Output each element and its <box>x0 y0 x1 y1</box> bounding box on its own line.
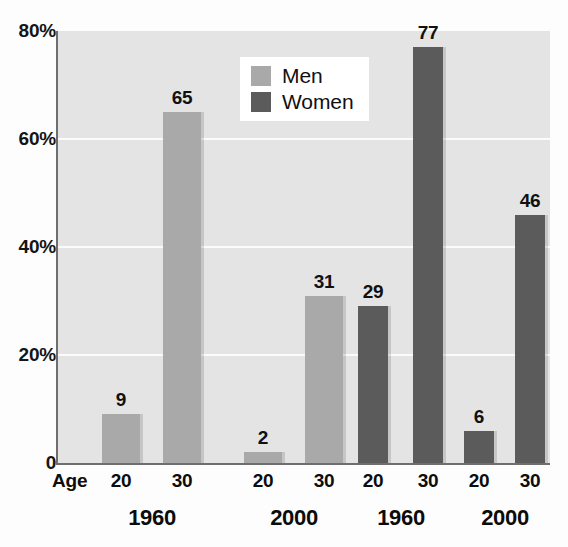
x-axis-age-labels: Age 20 30 20 30 20 30 20 30 <box>0 470 568 500</box>
bar-shadow <box>140 414 143 463</box>
bar-men-1960-age30[interactable]: 65 <box>163 112 201 463</box>
age-tick-women-2000-30: 30 <box>510 470 550 492</box>
year-label-women-2000: 2000 <box>460 505 550 531</box>
chart-figure: 80% 60% 40% 20% 0 9 65 2 31 <box>0 0 568 547</box>
y-tick-60: 60% <box>4 128 56 150</box>
gridline-40 <box>58 246 550 248</box>
plot-area: 9 65 2 31 29 77 6 <box>58 31 550 463</box>
bar-women-1960-age20[interactable]: 29 <box>358 306 388 463</box>
legend-item-women[interactable]: Women <box>251 91 353 112</box>
legend-swatch-men-icon <box>251 66 271 86</box>
bar-value-label: 29 <box>363 281 384 303</box>
bar-value-label: 77 <box>418 22 439 44</box>
x-axis-year-labels: 1960 2000 1960 2000 <box>0 505 568 537</box>
bar-men-2000-age20[interactable]: 2 <box>244 452 282 463</box>
age-tick-women-1960-30: 30 <box>408 470 448 492</box>
chart-legend: Men Women <box>240 57 369 121</box>
age-tick-women-2000-20: 20 <box>459 470 499 492</box>
bar-value-label: 46 <box>520 190 541 212</box>
y-axis-tick-labels: 80% 60% 40% 20% 0 <box>0 0 56 547</box>
bar-value-label: 65 <box>172 87 193 109</box>
chart-title-remnant <box>70 0 490 8</box>
bar-women-2000-age20[interactable]: 6 <box>464 431 494 463</box>
year-label-men-2000: 2000 <box>249 505 339 531</box>
bar-shadow <box>443 47 446 463</box>
legend-label-men: Men <box>282 65 323 86</box>
bar-shadow <box>388 306 391 463</box>
bar-shadow <box>282 452 285 463</box>
bar-value-label: 9 <box>116 389 126 411</box>
age-tick-men-2000-20: 20 <box>243 470 283 492</box>
gridline-60 <box>58 138 550 140</box>
legend-label-women: Women <box>282 91 353 112</box>
bar-value-label: 6 <box>474 406 484 428</box>
bar-value-label: 2 <box>258 427 268 449</box>
y-tick-20: 20% <box>4 344 56 366</box>
bar-shadow <box>201 112 204 463</box>
bar-men-2000-age30[interactable]: 31 <box>305 296 343 463</box>
bar-women-2000-age30[interactable]: 46 <box>515 215 545 463</box>
bar-women-1960-age30[interactable]: 77 <box>413 47 443 463</box>
legend-swatch-women-icon <box>251 92 271 112</box>
year-label-women-1960: 1960 <box>356 505 446 531</box>
bar-men-1960-age20[interactable]: 9 <box>102 414 140 463</box>
bar-shadow <box>545 215 548 463</box>
bar-shadow <box>494 431 497 463</box>
age-tick-men-2000-30: 30 <box>304 470 344 492</box>
bar-shadow <box>343 296 346 463</box>
age-tick-men-1960-20: 20 <box>101 470 141 492</box>
x-axis-age-caption: Age <box>52 470 87 492</box>
bar-value-label: 31 <box>314 271 335 293</box>
legend-item-men[interactable]: Men <box>251 65 353 86</box>
gridline-20 <box>58 354 550 356</box>
y-tick-40: 40% <box>4 236 56 258</box>
age-tick-men-1960-30: 30 <box>162 470 202 492</box>
y-tick-80: 80% <box>4 20 56 42</box>
age-tick-women-1960-20: 20 <box>353 470 393 492</box>
year-label-men-1960: 1960 <box>107 505 197 531</box>
x-axis-line <box>56 463 550 465</box>
